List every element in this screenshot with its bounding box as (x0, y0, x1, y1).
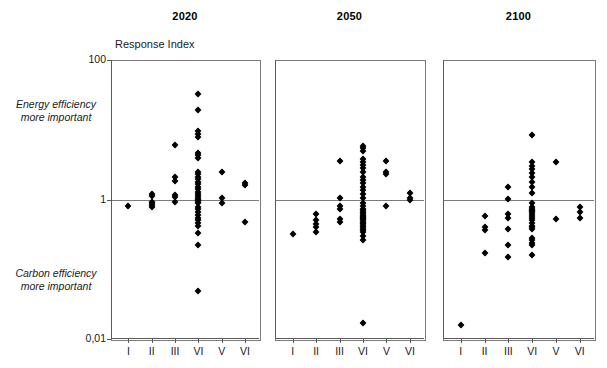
panel-frame (275, 60, 426, 341)
y-axis-line (275, 60, 276, 339)
x-tick-mark (340, 339, 341, 343)
x-tick-mark (175, 339, 176, 343)
annotation-line: more important (21, 280, 92, 292)
reference-line-unity (443, 200, 594, 201)
x-tick-mark (556, 339, 557, 343)
x-tick-mark (461, 339, 462, 343)
axis-title-response-index: Response Index (115, 38, 195, 50)
x-tick-mark (532, 339, 533, 343)
x-tick-mark (410, 339, 411, 343)
x-tick-label-VI: VI (560, 345, 600, 357)
x-tick-mark (316, 339, 317, 343)
x-tick-label-VI: VI (390, 345, 430, 357)
x-tick-mark (293, 339, 294, 343)
annotation-line: more important (21, 111, 92, 123)
x-axis-line (275, 338, 424, 339)
panel-frame (111, 60, 261, 341)
x-axis-line (443, 338, 594, 339)
x-tick-mark (245, 339, 246, 343)
panel-title-2020: 2020 (111, 10, 259, 22)
x-axis-line (111, 338, 259, 339)
figure-canvas: Response Index10010,01Energy efficiencym… (0, 0, 607, 368)
annotation-carbon-efficiency: Carbon efficiencymore important (4, 267, 108, 293)
annotation-energy-efficiency: Energy efficiencymore important (4, 98, 108, 124)
x-tick-mark (128, 339, 129, 343)
y-axis-line (111, 60, 112, 339)
x-tick-mark (152, 339, 153, 343)
panel-frame (443, 60, 596, 341)
x-tick-mark (386, 339, 387, 343)
reference-line-unity (275, 200, 424, 201)
x-tick-mark (363, 339, 364, 343)
panel-title-2100: 2100 (443, 10, 594, 22)
y-tick-mark (107, 60, 111, 61)
panel-2050 (275, 60, 424, 339)
x-tick-mark (580, 339, 581, 343)
panel-2100 (443, 60, 594, 339)
annotation-line: Energy efficiency (16, 98, 96, 110)
x-tick-mark (485, 339, 486, 343)
x-tick-label-VI: VI (225, 345, 265, 357)
panel-2020 (111, 60, 259, 339)
x-tick-mark (198, 339, 199, 343)
y-axis-line (443, 60, 444, 339)
x-tick-mark (508, 339, 509, 343)
panel-title-2050: 2050 (275, 10, 424, 22)
y-tick-label: 100 (88, 53, 106, 65)
x-tick-mark (222, 339, 223, 343)
y-tick-mark (107, 200, 111, 201)
y-tick-mark (107, 339, 111, 340)
reference-line-unity (111, 200, 259, 201)
y-tick-label: 0,01 (86, 332, 106, 344)
y-tick-label: 1 (100, 193, 106, 205)
annotation-line: Carbon efficiency (15, 267, 96, 279)
